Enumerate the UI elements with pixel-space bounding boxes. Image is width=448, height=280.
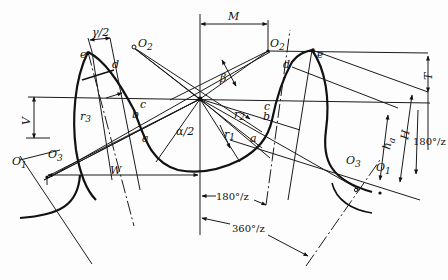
label-o2-left: O2 — [138, 37, 153, 52]
left-lower-arc — [20, 175, 80, 218]
label-gamma-half: γ/2 — [92, 26, 109, 39]
right-lower-arc — [332, 183, 372, 213]
horizontal-reference-line — [28, 97, 430, 103]
right-tooth-centerline — [288, 50, 312, 200]
line-o2-right-b — [170, 51, 268, 100]
label-h: H — [398, 128, 413, 141]
label-e-left: e — [80, 48, 87, 61]
label-a-left: a — [142, 132, 149, 145]
line-o2-right-center — [200, 51, 268, 99]
left-tooth-outer-arc — [74, 52, 96, 200]
gear-tooth-diagram: M T V W H ha γ/2 β α/2 r3 r2 r1 O2 O2 O1… — [0, 0, 448, 280]
label-b-right: b — [263, 110, 270, 123]
180z-bottom-arrow-right — [254, 200, 266, 205]
label-o2-right: O2 — [270, 37, 285, 52]
label-beta: β — [219, 72, 226, 85]
left-tooth-chord-d — [82, 70, 114, 80]
label-180z-right: 180°/z — [413, 136, 446, 147]
label-b-left: b — [132, 108, 139, 121]
label-ha: ha — [380, 136, 397, 151]
360z-arrow-left — [202, 218, 230, 224]
label-o3-right: O3 — [346, 154, 361, 169]
360z-arrow-right — [268, 235, 308, 256]
label-r1: r1 — [224, 128, 235, 142]
right-tooth-outer-arc — [312, 50, 372, 192]
o2-horizontal-line — [268, 51, 428, 53]
point-e-right — [311, 48, 315, 52]
line-r2 — [200, 99, 300, 130]
label-o1-right: O1 — [376, 161, 391, 176]
label-v: V — [20, 116, 33, 125]
left-tooth-arrow — [106, 93, 122, 98]
label-w: W — [110, 164, 123, 177]
label-r3: r3 — [80, 110, 91, 124]
point-o3-left — [45, 175, 48, 178]
label-d-left: d — [112, 58, 119, 71]
label-m: M — [227, 10, 240, 23]
label-180z-bottom: 180°/z — [216, 191, 249, 202]
point-o1-right — [378, 191, 381, 194]
label-a-right: a — [250, 132, 257, 145]
point-o3-right — [354, 188, 357, 191]
label-alpha-half: α/2 — [176, 125, 194, 138]
diagram-drawing: M T V W H ha γ/2 β α/2 r3 r2 r1 O2 O2 O1… — [0, 0, 448, 280]
label-r2: r2 — [234, 108, 245, 122]
point-e-left — [86, 51, 90, 55]
label-360z-bottom: 360°/z — [232, 223, 265, 234]
label-o1-left: O1 — [12, 155, 27, 170]
line-center-o3-right — [200, 99, 360, 190]
center-point — [198, 97, 203, 102]
label-d-right: d — [283, 58, 290, 71]
label-o3-left: O3 — [48, 148, 63, 163]
point-o2-left — [132, 45, 136, 49]
label-e-right: e — [317, 48, 324, 61]
right-tooth-top-line — [312, 50, 428, 92]
label-c-left: c — [140, 98, 146, 111]
